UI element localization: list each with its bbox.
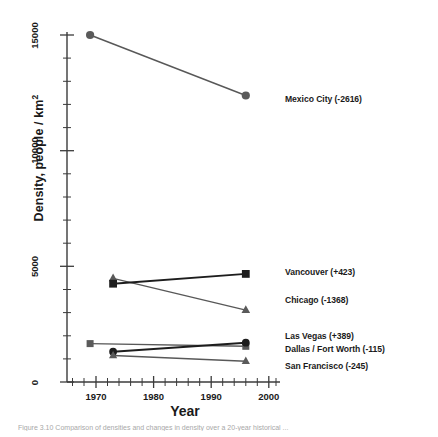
y-axis-label-exponent: 2 [30,95,40,100]
x-tick-label-1970: 1970 [76,391,116,402]
series-las-vegas [109,339,250,356]
figure-caption: Figure 3.10 Comparison of densities and … [18,424,428,431]
x-tick-label-1990: 1990 [191,391,231,402]
annotation-chicago: Chicago (-1368) [285,295,348,305]
annotation-vancouver: Vancouver (+423) [285,267,355,277]
x-tick-label-1980: 1980 [134,391,174,402]
y-tick-label-0: 0 [29,371,40,395]
annotation-las-vegas: Las Vegas (+389) [285,331,354,341]
y-tick-label-5000: 5000 [29,248,40,286]
annotation-san-francisco: San Francisco (-245) [285,361,368,371]
x-axis [67,376,280,388]
series-vancouver [109,270,250,288]
figure-container: Density, people / km2 0 5000 10000 15000… [0,0,438,437]
y-tick-label-15000: 15000 [29,13,40,59]
series-mexico-city [86,31,250,100]
series-san-francisco [109,351,250,364]
x-tick-label-2000: 2000 [249,391,289,402]
y-tick-label-10000: 10000 [29,128,40,174]
y-axis [60,32,74,382]
annotation-mexico-city: Mexico City (-2616) [285,94,362,104]
annotation-dallas-fort-worth: Dallas / Fort Worth (-115) [285,344,385,354]
density-line-chart [0,0,438,437]
x-axis-label: Year [90,403,280,419]
